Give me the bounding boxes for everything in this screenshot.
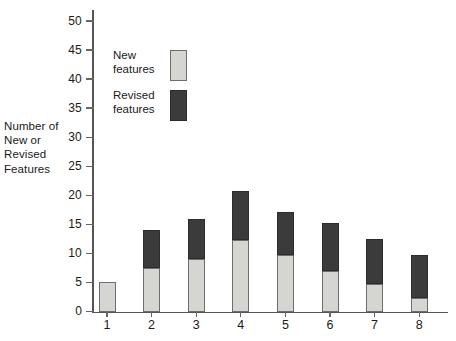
y-tick-10 xyxy=(86,253,94,254)
legend-label-new-features: New features xyxy=(113,48,175,76)
bar-segment-revised-features-6 xyxy=(322,223,339,272)
y-tick-40 xyxy=(86,78,94,79)
x-tick-label-8: 8 xyxy=(407,318,431,332)
bar-segment-new-features-7 xyxy=(366,284,383,312)
bar-group-4 xyxy=(232,191,249,311)
x-tick-5 xyxy=(285,312,286,317)
y-tick-label-15: 15 xyxy=(52,217,82,231)
y-tick-50 xyxy=(86,20,94,21)
bar-group-1 xyxy=(99,282,116,311)
y-tick-5 xyxy=(86,282,94,283)
legend-label-new-features-line-2: features xyxy=(113,62,175,76)
legend-swatch-revised-features xyxy=(170,90,187,121)
y-tick-0 xyxy=(86,311,94,312)
bar-group-3 xyxy=(188,219,205,312)
legend-item-new-features: New features xyxy=(113,48,223,88)
y-tick-label-25: 25 xyxy=(52,159,82,173)
bar-group-2 xyxy=(143,230,160,311)
bar-segment-new-features-6 xyxy=(322,271,339,311)
bar-segment-new-features-1 xyxy=(99,282,116,311)
legend-label-revised-features-line-2: features xyxy=(113,102,175,116)
x-tick-label-5: 5 xyxy=(273,318,297,332)
x-tick-3 xyxy=(196,312,197,317)
bar-segment-revised-features-2 xyxy=(143,230,160,268)
y-tick-label-5: 5 xyxy=(52,275,82,289)
x-tick-1 xyxy=(106,312,107,317)
y-tick-label-10: 10 xyxy=(52,246,82,260)
y-tick-label-40: 40 xyxy=(52,72,82,86)
y-tick-20 xyxy=(86,195,94,196)
bar-group-7 xyxy=(366,239,383,311)
x-tick-7 xyxy=(374,312,375,317)
y-tick-15 xyxy=(86,224,94,225)
y-tick-45 xyxy=(86,49,94,50)
bar-segment-new-features-5 xyxy=(277,255,294,311)
bar-segment-new-features-2 xyxy=(143,268,160,312)
bar-segment-revised-features-3 xyxy=(188,219,205,260)
bar-group-5 xyxy=(277,212,294,312)
x-tick-6 xyxy=(329,312,330,317)
y-tick-35 xyxy=(86,107,94,108)
y-tick-label-35: 35 xyxy=(52,101,82,115)
legend-label-new-features-line-1: New xyxy=(113,48,175,62)
bar-segment-revised-features-7 xyxy=(366,239,383,283)
bar-segment-revised-features-4 xyxy=(232,191,249,240)
bar-segment-new-features-4 xyxy=(232,240,249,311)
legend-label-revised-features: Revised features xyxy=(113,88,175,116)
bar-group-8 xyxy=(411,255,428,311)
x-tick-label-7: 7 xyxy=(363,318,387,332)
y-tick-label-45: 45 xyxy=(52,43,82,57)
legend-swatch-new-features xyxy=(170,50,187,81)
bar-segment-revised-features-8 xyxy=(411,255,428,297)
x-tick-label-4: 4 xyxy=(229,318,253,332)
y-tick-label-30: 30 xyxy=(52,130,82,144)
x-tick-4 xyxy=(240,312,241,317)
y-axis-line xyxy=(92,10,94,313)
x-tick-label-1: 1 xyxy=(95,318,119,332)
y-tick-30 xyxy=(86,137,94,138)
bar-chart: Number of New or Revised Features 051015… xyxy=(0,0,456,341)
bar-segment-new-features-8 xyxy=(411,298,428,312)
x-tick-label-2: 2 xyxy=(140,318,164,332)
y-tick-label-50: 50 xyxy=(52,14,82,28)
x-tick-label-6: 6 xyxy=(318,318,342,332)
legend-label-revised-features-line-1: Revised xyxy=(113,88,175,102)
y-tick-25 xyxy=(86,166,94,167)
x-tick-8 xyxy=(419,312,420,317)
x-axis-line xyxy=(92,312,448,314)
legend-item-revised-features: Revised features xyxy=(113,88,223,128)
bar-segment-revised-features-5 xyxy=(277,212,294,256)
y-tick-label-0: 0 xyxy=(52,304,82,318)
x-tick-label-3: 3 xyxy=(184,318,208,332)
x-tick-2 xyxy=(151,312,152,317)
bar-group-6 xyxy=(322,223,339,312)
bar-segment-new-features-3 xyxy=(188,259,205,311)
y-tick-label-20: 20 xyxy=(52,188,82,202)
chart-legend: New features Revised features xyxy=(113,48,223,128)
